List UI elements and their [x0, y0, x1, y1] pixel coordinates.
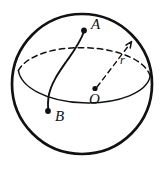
label-point-b: B	[55, 109, 64, 124]
sphere-figure-svg	[0, 0, 164, 172]
sphere-diagram: A B O r	[0, 0, 164, 172]
solid-ellipse-front-icon	[18, 71, 150, 103]
dashed-ellipse-back-icon	[18, 48, 150, 77]
point-dot-icon-b	[45, 108, 51, 114]
label-point-a: A	[91, 17, 100, 32]
label-center-o: O	[89, 92, 100, 107]
label-radius-r: r	[120, 54, 125, 66]
point-dot-icon-a	[81, 28, 87, 34]
